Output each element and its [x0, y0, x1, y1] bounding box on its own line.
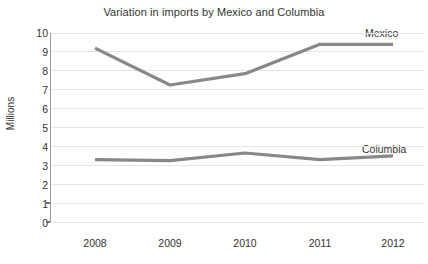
- gridlines: [50, 33, 424, 222]
- axes: [46, 33, 50, 222]
- series-line-columbia: [95, 153, 393, 161]
- series-line-mexico: [95, 44, 393, 85]
- line-chart: Variation in imports by Mexico and Colum…: [0, 0, 428, 264]
- plot-area: [0, 0, 428, 264]
